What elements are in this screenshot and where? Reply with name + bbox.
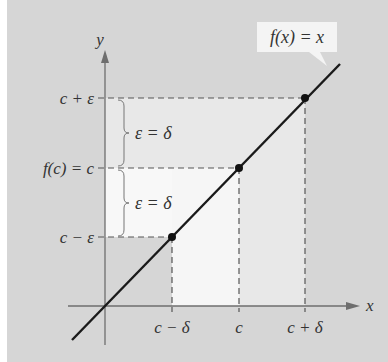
x-axis-label: x [365,296,374,315]
point-c-plus-delta [301,94,309,102]
function-label: f(x) = x [270,27,324,48]
delta-band-inner-shade [172,168,239,306]
point-c [235,164,243,172]
brace-label-lower: ε = δ [135,193,172,213]
y-tick-c-plus-epsilon: c + ε [60,89,95,108]
x-tick-c-minus-delta: c − δ [154,318,191,337]
label-pointer [309,52,327,66]
y-tick-c-minus-epsilon: c − ε [60,228,95,247]
x-axis-arrow-icon [346,302,360,310]
x-tick-c: c [235,318,243,337]
y-tick-fc-equals-c: f(c) = c [43,159,95,178]
point-c-minus-delta [168,233,176,241]
epsilon-delta-diagram: f(x) = x y x c + ε f(c) = c c − ε ε = δ … [0,0,388,362]
y-axis-label: y [94,30,104,49]
x-tick-c-plus-delta: c + δ [287,318,324,337]
brace-label-upper: ε = δ [135,123,172,143]
y-axis-arrow-icon [101,50,109,63]
